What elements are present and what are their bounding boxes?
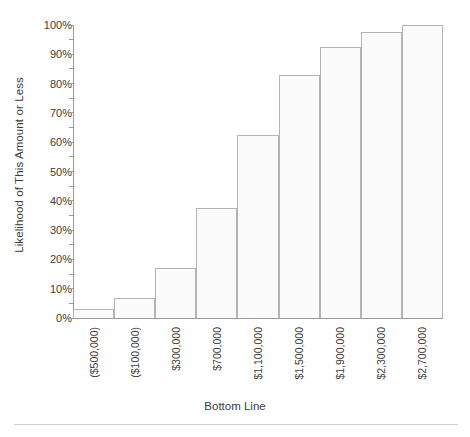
- bar[interactable]: [402, 25, 443, 318]
- y-axis-tick-label: 100%: [44, 19, 72, 31]
- bar[interactable]: [155, 268, 196, 318]
- x-tick-slot: $1,900,000: [320, 318, 361, 402]
- bars-layer: [73, 25, 443, 318]
- x-tick-slot: $300,000: [155, 318, 196, 402]
- bar-slot: [114, 25, 155, 318]
- x-axis-title: Bottom Line: [0, 400, 470, 412]
- bar-slot: [73, 25, 114, 318]
- x-tick-slot: $2,700,000: [402, 318, 443, 402]
- y-axis-tick-label: 60%: [50, 136, 72, 148]
- x-tick-slot: ($500,000): [73, 318, 114, 402]
- bar-slot: [196, 25, 237, 318]
- bar-slot: [320, 25, 361, 318]
- x-axis-tick-labels: ($500,000)($100,000)$300,000$700,000$1,1…: [73, 318, 443, 402]
- bar-slot: [237, 25, 278, 318]
- y-axis-tick-label: 0%: [56, 312, 72, 324]
- plot-area: [73, 25, 443, 318]
- y-axis-tick-label: 30%: [50, 224, 72, 236]
- bar[interactable]: [237, 135, 278, 318]
- x-axis-tick-label: $2,300,000: [375, 327, 387, 380]
- bar[interactable]: [114, 298, 155, 319]
- y-axis-tick-label: 50%: [50, 166, 72, 178]
- x-tick-slot: $1,100,000: [237, 318, 278, 402]
- bar[interactable]: [73, 309, 114, 318]
- y-axis-tick-label: 70%: [50, 107, 72, 119]
- bar[interactable]: [361, 32, 402, 318]
- y-axis-tick-label: 80%: [50, 78, 72, 90]
- x-axis-tick-label: ($500,000): [88, 327, 100, 378]
- bar-slot: [155, 25, 196, 318]
- y-axis-tick-label: 10%: [50, 283, 72, 295]
- x-tick-slot: ($100,000): [114, 318, 155, 402]
- x-axis-tick-label: $300,000: [170, 327, 182, 371]
- bar-slot: [361, 25, 402, 318]
- x-axis-tick-label: $1,900,000: [334, 327, 346, 380]
- bar[interactable]: [279, 75, 320, 318]
- bottom-divider: [14, 424, 458, 425]
- x-axis-tick-label: $2,700,000: [416, 327, 428, 380]
- y-axis-tick-label: 20%: [50, 253, 72, 265]
- y-axis-tick-labels: 0%10%20%30%40%50%60%70%80%90%100%: [30, 0, 72, 437]
- bar[interactable]: [196, 208, 237, 318]
- y-axis-title-label: Likelihood of This Amount or Less: [13, 77, 25, 253]
- y-axis-tick-label: 40%: [50, 195, 72, 207]
- x-tick-slot: $1,500,000: [279, 318, 320, 402]
- bar[interactable]: [320, 47, 361, 318]
- x-axis-tick-label: ($100,000): [129, 327, 141, 378]
- x-tick-slot: $700,000: [196, 318, 237, 402]
- y-axis-tick-label: 90%: [50, 48, 72, 60]
- x-axis-tick-label: $1,100,000: [252, 327, 264, 380]
- y-axis-title: Likelihood of This Amount or Less: [7, 0, 31, 330]
- x-tick-slot: $2,300,000: [361, 318, 402, 402]
- cumulative-probability-bar-chart: Likelihood of This Amount or Less 0%10%2…: [0, 0, 470, 437]
- x-axis-tick-label: $1,500,000: [293, 327, 305, 380]
- bar-slot: [279, 25, 320, 318]
- x-axis-title-label: Bottom Line: [204, 400, 265, 412]
- x-axis-tick-label: $700,000: [211, 327, 223, 371]
- bar-slot: [402, 25, 443, 318]
